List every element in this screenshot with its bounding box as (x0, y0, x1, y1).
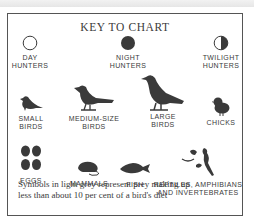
key-twilight-hunters: TWILIGHT HUNTERS (201, 35, 241, 69)
label-line1: CHICKS (201, 119, 241, 127)
filled-circle-icon (120, 35, 136, 51)
top-bar (0, 0, 254, 7)
label-line2: BIRDS (14, 123, 48, 131)
key-small-birds: SMALL BIRDS (14, 94, 48, 130)
label-line2: HUNTERS (108, 62, 148, 70)
key-medium-birds: MEDIUM-SIZE BIRDS (64, 84, 124, 130)
key-day-hunters: DAY HUNTERS (10, 35, 50, 69)
chick-icon (210, 96, 232, 116)
label-line2: BIRDS (138, 121, 188, 129)
open-circle-icon (22, 35, 38, 51)
key-large-birds: LARGE BIRDS (138, 74, 188, 128)
label-line2: HUNTERS (10, 62, 50, 70)
label-line1: TWILIGHT (201, 54, 241, 62)
reptiles-icon (180, 147, 216, 177)
fish-icon (119, 162, 151, 174)
label-line2: HUNTERS (201, 62, 241, 70)
medium-bird-icon (72, 84, 116, 112)
panel-title: KEY TO CHART (8, 21, 242, 33)
footnote-line1: Symbols in light grey represent prey mak… (18, 179, 190, 190)
eggs-icon (20, 145, 42, 171)
label-line2: BIRDS (64, 123, 124, 131)
label-line1: MEDIUM-SIZE (64, 115, 124, 123)
label-line1: DAY (10, 54, 50, 62)
small-bird-icon (18, 94, 44, 112)
label-line1: NIGHT (108, 54, 148, 62)
footnote-line2: less than about 10 per cent of a bird's … (18, 190, 190, 201)
label-line1: SMALL (14, 115, 48, 123)
large-bird-icon (140, 74, 186, 112)
half-circle-icon (213, 35, 229, 51)
mammal-icon (77, 160, 101, 176)
key-night-hunters: NIGHT HUNTERS (108, 35, 148, 69)
label-line1: LARGE (138, 113, 188, 121)
footnote: Symbols in light grey represent prey mak… (18, 179, 190, 200)
key-chicks: CHICKS (201, 96, 241, 127)
